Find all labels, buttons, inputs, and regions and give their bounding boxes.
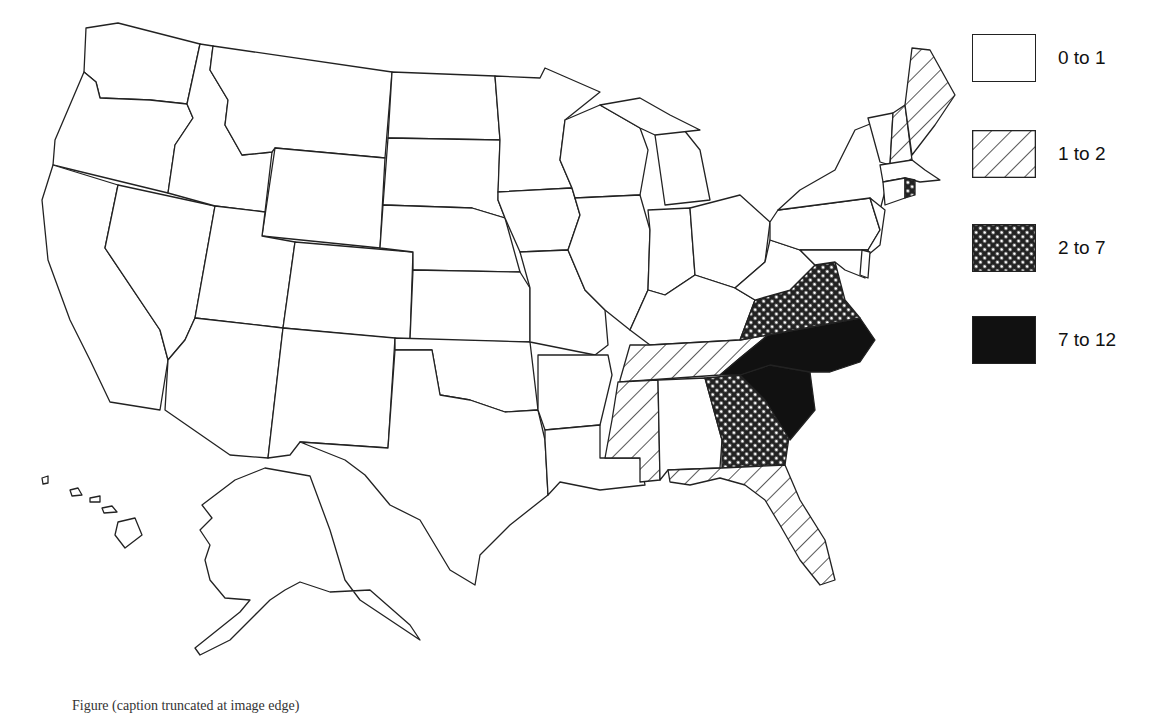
state-colorado [283,242,413,340]
legend-item-0-to-1: 0 to 1 [972,34,1106,82]
legend-swatch-diagonal-hatch [972,130,1036,178]
state-michigan [655,125,710,205]
state-connecticut [883,178,905,205]
legend-swatch-cross-hatch [972,224,1036,272]
hawaii-island-5 [42,476,48,484]
hawaii-island-4 [70,488,82,496]
state-new-york [778,120,888,210]
state-new-mexico [268,328,395,458]
figure-caption: Figure (caption truncated at image edge) [72,698,299,714]
state-florida [668,465,835,585]
state-washington [84,23,200,104]
legend-item-7-to-12: 7 to 12 [972,316,1116,364]
legend-swatch-solid [972,316,1036,364]
state-montana [210,46,392,158]
state-hawaii [115,518,142,548]
state-arkansas [538,355,612,430]
legend-item-1-to-2: 1 to 2 [972,130,1106,178]
legend-item-2-to-7: 2 to 7 [972,224,1106,272]
state-wyoming [262,148,385,248]
state-rhode-island [905,178,915,198]
legend-swatch-blank [972,34,1036,82]
legend-label: 0 to 1 [1058,47,1106,69]
legend-label: 1 to 2 [1058,143,1106,165]
legend-label: 7 to 12 [1058,329,1116,351]
hawaii-island-3 [90,496,100,502]
state-delaware [860,250,870,278]
state-kansas [410,270,530,342]
legend-label: 2 to 7 [1058,237,1106,259]
state-north-dakota [388,72,500,140]
state-maine [905,48,955,155]
hawaii-island-2 [102,506,117,513]
